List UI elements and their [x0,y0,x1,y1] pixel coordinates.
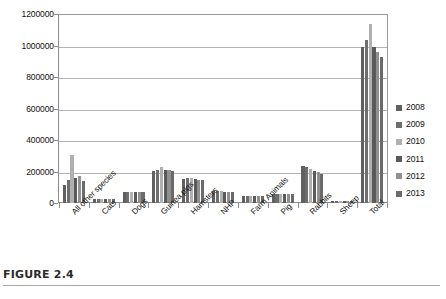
bar-group [148,14,178,203]
bar [365,40,368,203]
legend-item: 2009 [396,116,444,133]
bar-group [238,14,268,203]
bar [220,191,223,203]
x-axis-tick-mark [178,203,179,208]
bar [361,47,364,203]
legend-swatch [396,173,402,179]
legend-swatch [396,191,402,197]
bar [123,192,126,203]
bar [164,170,167,203]
bar [331,201,334,203]
bar [156,170,159,203]
y-axis-tick-label: 200000 [0,168,54,177]
bar [67,180,70,203]
figure-caption-block: FIGURE 2.4 [0,268,446,286]
bar [380,57,383,203]
legend-label: 2012 [406,172,425,181]
bar [134,192,137,203]
legend-swatch [396,105,402,111]
legend-item: 2008 [396,99,444,116]
bar [194,179,197,203]
y-axis-tick-label: 400000 [0,136,54,145]
caption-divider [3,285,440,286]
bar [97,199,100,203]
bar [70,155,73,203]
bar [242,196,245,203]
legend-swatch [396,139,402,145]
y-axis-tick-label: 1000000 [0,42,54,51]
bar-group [208,14,238,203]
legend-item: 2012 [396,168,444,185]
bar-group [357,14,387,203]
legend-swatch [396,122,402,128]
figure-caption: FIGURE 2.4 [0,268,446,281]
bar [369,24,372,203]
x-axis-tick-mark [59,203,60,208]
bar [376,52,379,203]
bar-group [178,14,208,203]
bar [305,167,308,203]
legend-label: 2008 [406,103,425,112]
bar-group [59,14,89,203]
x-axis-tick-mark [327,203,328,208]
y-axis-tick-mark [54,203,58,204]
legend: 200820092010201120122013 [396,99,444,202]
bar [100,199,103,203]
bar [63,185,66,203]
bar-group [327,14,357,203]
bar [249,196,252,203]
figure-container: 020000040000060000080000010000001200000 … [0,0,446,299]
legend-label: 2011 [406,155,424,164]
x-axis-tick-mark [119,203,120,208]
bar [152,171,155,203]
bar [126,192,129,203]
bar [246,196,249,203]
x-axis-tick-mark [208,203,209,208]
bar [372,47,375,203]
bar [291,194,294,203]
bar-chart: 020000040000060000080000010000001200000 … [0,0,446,258]
bar [74,178,77,204]
legend-swatch [396,156,402,162]
legend-label: 2010 [406,137,425,146]
bar-group [119,14,149,203]
x-axis-tick-mark [357,203,358,208]
legend-label: 2013 [406,189,425,198]
bar-group [298,14,328,203]
x-axis-tick-mark [298,203,299,208]
bar [313,171,316,203]
bar [160,167,163,203]
bar [335,201,338,203]
legend-item: 2011 [396,151,444,168]
bar [301,166,304,203]
legend-item: 2010 [396,133,444,150]
bar [93,199,96,203]
x-axis-tick-mark [238,203,239,208]
x-axis-label: Pig [279,202,294,217]
y-axis-tick-label: 0 [0,199,54,208]
bar [339,201,342,203]
x-axis-tick-mark [387,203,388,208]
bar [309,169,312,203]
legend-item: 2013 [396,185,444,202]
legend-label: 2009 [406,120,425,129]
y-axis-tick-label: 600000 [0,105,54,114]
y-axis-tick-label: 1200000 [0,10,54,19]
bar [130,192,133,203]
y-axis-tick-label: 800000 [0,73,54,82]
bar [279,194,282,203]
